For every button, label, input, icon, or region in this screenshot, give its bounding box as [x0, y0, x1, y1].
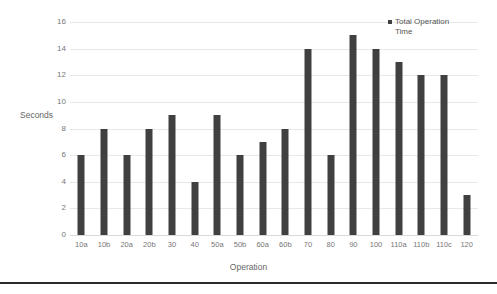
- x-tick-label: 60a: [251, 240, 274, 249]
- legend-label: Total Operation Time: [395, 17, 457, 37]
- bar: [463, 195, 470, 235]
- y-axis: 1614121086420: [22, 0, 66, 294]
- bar-slot: [410, 22, 433, 235]
- bar: [304, 49, 311, 235]
- legend-square-marker-icon: [388, 20, 392, 24]
- bar-chart: 1614121086420 Seconds 10a10b20a20b304050…: [0, 0, 497, 294]
- bar: [282, 129, 289, 236]
- y-tick-label: 6: [26, 151, 66, 159]
- bar: [395, 62, 402, 235]
- bar: [123, 155, 130, 235]
- y-tick-label: 2: [26, 204, 66, 212]
- bar-slot: [93, 22, 116, 235]
- bar-slot: [297, 22, 320, 235]
- x-tick-label: 100: [365, 240, 388, 249]
- y-tick-label: 16: [26, 18, 66, 26]
- bar: [350, 35, 357, 235]
- bar: [100, 129, 107, 236]
- x-tick-label: 110a: [387, 240, 410, 249]
- y-tick-label: 4: [26, 178, 66, 186]
- x-tick-label: 120: [455, 240, 478, 249]
- y-tick-label: 0: [26, 231, 66, 239]
- x-tick-label: 50a: [206, 240, 229, 249]
- bar: [214, 115, 221, 235]
- x-tick-label: 70: [297, 240, 320, 249]
- x-tick-label: 40: [183, 240, 206, 249]
- bar-slot: [455, 22, 478, 235]
- bar-slot: [161, 22, 184, 235]
- y-tick-label: 12: [26, 71, 66, 79]
- bar: [327, 155, 334, 235]
- x-tick-label: 90: [342, 240, 365, 249]
- bar: [168, 115, 175, 235]
- x-tick-label: 110b: [410, 240, 433, 249]
- y-axis-title: Seconds: [20, 110, 53, 120]
- bar-slot: [433, 22, 456, 235]
- legend: Total Operation Time: [388, 17, 488, 37]
- bar: [418, 75, 425, 235]
- bar-slot: [365, 22, 388, 235]
- bar: [440, 75, 447, 235]
- bar-slot: [251, 22, 274, 235]
- bar: [146, 129, 153, 236]
- bar-slot: [387, 22, 410, 235]
- bar-slot: [183, 22, 206, 235]
- x-tick-label: 10a: [70, 240, 93, 249]
- x-tick-label: 50b: [229, 240, 252, 249]
- bar-slot: [115, 22, 138, 235]
- x-tick-label: 10b: [93, 240, 116, 249]
- x-tick-label: 20a: [115, 240, 138, 249]
- bar-slot: [274, 22, 297, 235]
- bar-slot: [138, 22, 161, 235]
- x-tick-label: 20b: [138, 240, 161, 249]
- x-axis-title: Operation: [0, 262, 497, 272]
- bar: [78, 155, 85, 235]
- bars-layer: [70, 22, 478, 235]
- bar: [236, 155, 243, 235]
- y-tick-label: 10: [26, 98, 66, 106]
- y-tick-label: 14: [26, 45, 66, 53]
- bar-slot: [70, 22, 93, 235]
- y-tick-label: 8: [26, 125, 66, 133]
- bottom-divider: [0, 282, 497, 284]
- bar: [259, 142, 266, 235]
- x-tick-label: 80: [319, 240, 342, 249]
- bar: [372, 49, 379, 235]
- x-tick-label: 60b: [274, 240, 297, 249]
- bar: [191, 182, 198, 235]
- bar-slot: [319, 22, 342, 235]
- x-axis: 10a10b20a20b304050a50b60a60b708090100110…: [70, 240, 478, 254]
- x-tick-label: 110c: [433, 240, 456, 249]
- x-tick-label: 30: [161, 240, 184, 249]
- bar-slot: [342, 22, 365, 235]
- gridline: [70, 235, 478, 236]
- bar-slot: [206, 22, 229, 235]
- bar-slot: [229, 22, 252, 235]
